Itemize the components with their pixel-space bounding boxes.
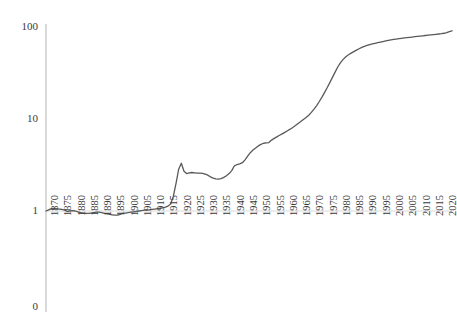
y-tick-label-0: 0 (4, 301, 38, 312)
y-tick-label-10: 10 (4, 113, 38, 124)
y-tick-label-100: 100 (4, 21, 38, 32)
y-tick-label-1: 1 (4, 205, 38, 216)
chart-container: 1001010 18701875188018851890189519001905… (0, 0, 457, 326)
y-axis-labels: 1001010 (0, 0, 457, 326)
